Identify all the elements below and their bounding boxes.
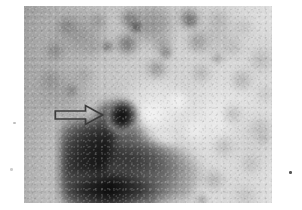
- pointer-arrow-icon: [54, 104, 104, 126]
- figure-root: Grayscale planar scintigraphic image wit…: [0, 0, 302, 210]
- dust-speck-right-edge: [289, 171, 292, 174]
- dust-speck-left-upper: [13, 122, 16, 124]
- scintigraphy-scan-image: [24, 6, 272, 203]
- pointer-arrow: [54, 104, 104, 126]
- dust-speck-left-lower: [10, 168, 13, 171]
